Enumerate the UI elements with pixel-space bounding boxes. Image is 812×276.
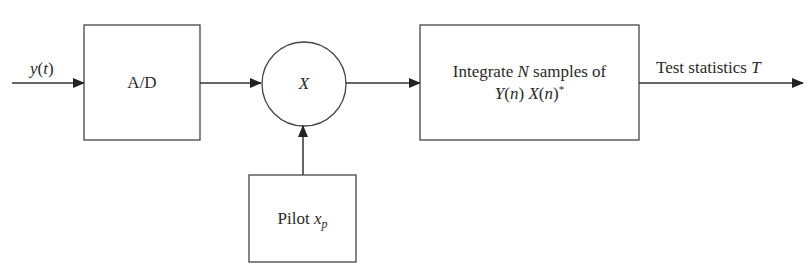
integrate-prefix: Integrate xyxy=(453,62,518,81)
multiplier-label-container: X xyxy=(262,42,346,126)
pilot-sub: p xyxy=(321,217,327,231)
output-var: T xyxy=(751,58,760,77)
pilot-label: Pilot xp xyxy=(278,208,328,230)
multiplier-label: X xyxy=(299,73,309,95)
integrate-label-container: Integrate N samples of Y(n) X(n)* xyxy=(420,25,639,140)
output-label: Test statistics T xyxy=(656,59,761,76)
pilot-label-container: Pilot xp xyxy=(249,175,356,262)
integrate-n2: n xyxy=(544,84,553,103)
ad-label: A/D xyxy=(127,72,156,94)
output-text: Test statistics xyxy=(656,58,751,77)
input-arg: t xyxy=(43,59,48,78)
conjugate-mark: * xyxy=(559,83,565,95)
integrate-x-var: X xyxy=(528,84,538,103)
integrate-line-1: Integrate N samples of xyxy=(453,61,606,83)
pilot-text: Pilot xyxy=(278,209,310,228)
integrate-suffix: samples of xyxy=(529,62,606,81)
ad-label-container: A/D xyxy=(84,25,200,140)
input-var: y xyxy=(30,59,38,78)
integrate-n1: n xyxy=(510,84,519,103)
integrate-y-var: Y xyxy=(495,84,504,103)
integrate-count-var: N xyxy=(517,62,528,81)
integrate-line-2: Y(n) X(n)* xyxy=(495,83,564,105)
input-signal-label: y(t) xyxy=(30,60,54,77)
